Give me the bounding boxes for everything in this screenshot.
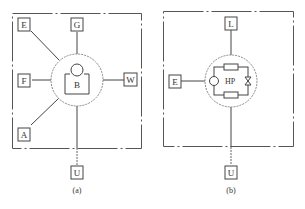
node-l-label: L xyxy=(228,19,234,29)
center-label-hp: HP xyxy=(225,77,236,86)
node-w-label: W xyxy=(126,75,135,85)
caption-b: (b) xyxy=(226,186,236,195)
node-e-label-b: E xyxy=(172,77,178,87)
center-label-b: B xyxy=(74,80,80,90)
node-u-label: U xyxy=(74,168,81,178)
person-head-icon xyxy=(71,64,83,76)
node-a-label: A xyxy=(21,130,28,140)
compressor-icon xyxy=(210,77,219,86)
condenser-icon xyxy=(224,64,238,70)
link-e-b xyxy=(31,31,59,60)
diagram-canvas: B E G F W A U (a) HP L E U xyxy=(0,0,305,209)
caption-a: (a) xyxy=(73,186,82,195)
node-f-label: F xyxy=(21,76,26,86)
node-g-label: G xyxy=(74,20,81,30)
panel-a: B E G F W A U (a) xyxy=(13,14,142,196)
link-a-b xyxy=(31,98,59,125)
panel-b: HP L E U (b) xyxy=(164,12,294,196)
node-u-label-b: U xyxy=(228,168,235,178)
evaporator-icon xyxy=(224,92,238,98)
node-e-label: E xyxy=(21,20,27,30)
